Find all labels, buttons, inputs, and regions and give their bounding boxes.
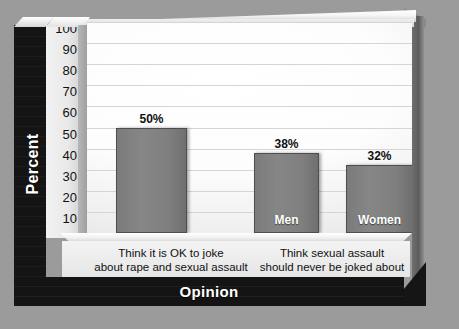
gridline [87, 85, 412, 86]
gridline [87, 106, 412, 107]
y-axis-tick-40: 40 [46, 149, 82, 162]
bar-series-label-men: Men [255, 213, 318, 227]
y-axis-title-band: Percent [14, 25, 46, 306]
bar-value-label-0: 50% [116, 112, 187, 126]
category-label-1-line1: Think sexual assault [248, 246, 416, 260]
gridline [87, 43, 412, 44]
y-axis-tick-30: 30 [46, 170, 82, 183]
y-axis-panel-shadow [78, 25, 87, 238]
category-label-0-line1: Think it is OK to joke [87, 246, 255, 260]
y-axis-tick-70: 70 [46, 85, 82, 98]
y-axis-tick-20: 20 [46, 191, 82, 204]
category-label-1-line2: should never be joked about [248, 260, 416, 274]
bar-women[interactable]: Women [346, 165, 412, 233]
y-axis-tick-10: 10 [46, 212, 82, 225]
y-axis-title: Percent [22, 109, 44, 219]
gridline [87, 64, 412, 65]
gridline [87, 22, 412, 23]
category-label-0: Think it is OK to joke about rape and se… [87, 246, 255, 274]
y-axis-tick-90: 90 [46, 43, 82, 56]
chart-canvas: Percent 1009080706050403020100 50%Men38%… [0, 0, 459, 329]
y-axis-tick-50: 50 [46, 128, 82, 141]
x-axis-title: Opinion [14, 283, 404, 300]
y-axis-tick-60: 60 [46, 106, 82, 119]
bar-group-0[interactable] [116, 128, 187, 234]
bar-value-label-2: 32% [346, 149, 412, 163]
bar-value-label-1: 38% [254, 137, 319, 151]
bar-men[interactable]: Men [254, 153, 319, 233]
category-label-0-line2: about rape and sexual assault [87, 260, 255, 274]
bar-series-label-women: Women [347, 213, 412, 227]
category-label-1: Think sexual assault should never be jok… [248, 246, 416, 274]
plot-area: 50%Men38%Women32% [87, 22, 412, 233]
y-axis-tick-80: 80 [46, 64, 82, 77]
